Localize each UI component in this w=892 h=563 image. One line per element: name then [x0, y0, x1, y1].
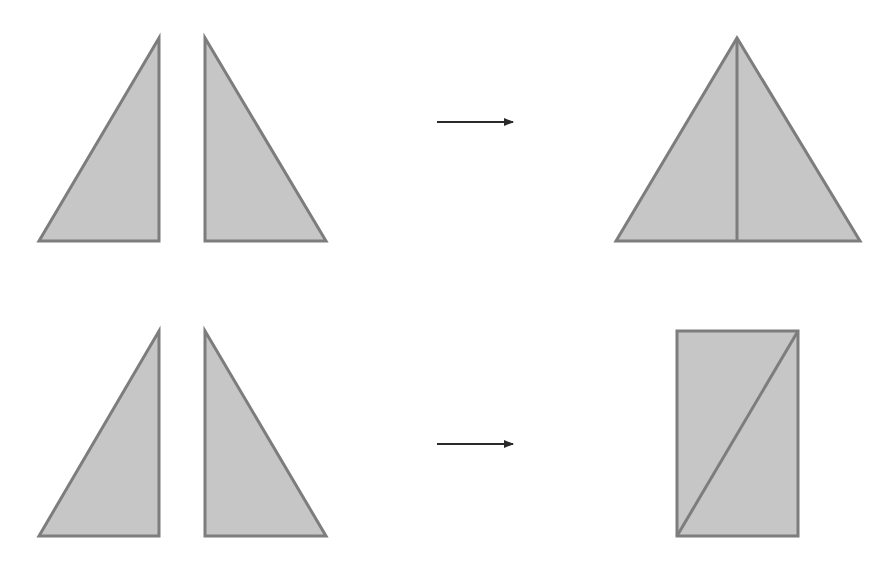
- left-right-triangle: [39, 331, 159, 536]
- combined-isosceles-triangle: [616, 38, 860, 241]
- row-rectangle: [39, 331, 798, 536]
- row-isosceles: [39, 38, 860, 241]
- combined-rectangle: [677, 331, 798, 536]
- diagram-canvas: [0, 0, 892, 563]
- right-right-triangle: [205, 331, 326, 536]
- left-right-triangle: [39, 38, 159, 241]
- right-right-triangle: [205, 38, 326, 241]
